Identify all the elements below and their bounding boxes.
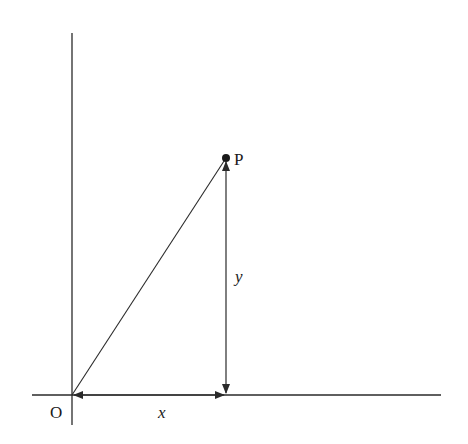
coordinate-diagram: P O x y	[0, 0, 468, 444]
x-label: x	[157, 403, 166, 422]
point-p-label: P	[234, 150, 243, 169]
origin-label: O	[50, 403, 62, 422]
y-label: y	[233, 267, 243, 286]
radius-line-op	[72, 158, 226, 395]
point-p-dot	[222, 154, 230, 162]
